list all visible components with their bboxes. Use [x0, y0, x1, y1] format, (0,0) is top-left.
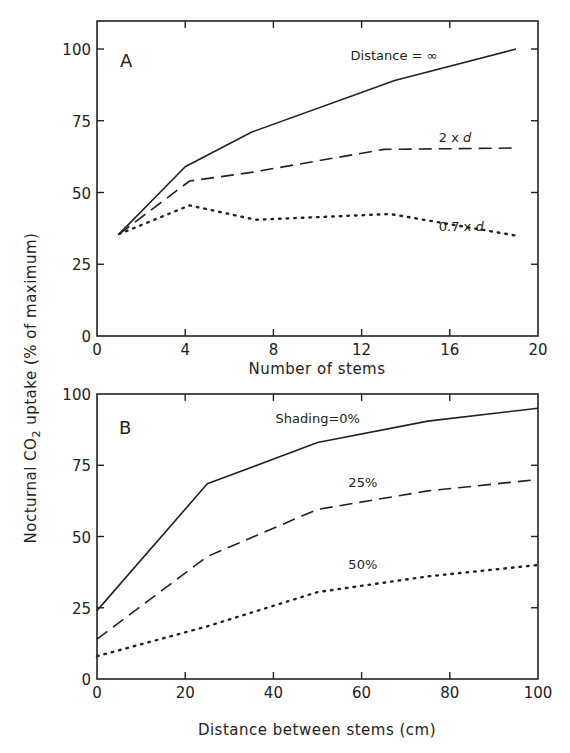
panel-a-frame	[97, 21, 538, 336]
panel-b: 0204060801000255075100 Shading=0%25%50% …	[62, 386, 552, 739]
y-tick-label: 25	[72, 600, 91, 618]
y-axis-title-post: uptake (% of maximum)	[22, 233, 40, 431]
panel-a-letter: A	[120, 50, 133, 71]
series-label: 2 x d	[439, 130, 472, 145]
series-line-solid	[97, 408, 538, 610]
series-label: 50%	[348, 557, 377, 572]
panel-b-frame	[97, 394, 538, 679]
x-tick-label: 12	[352, 341, 371, 359]
x-tick-label: 80	[440, 684, 459, 702]
x-tick-label: 0	[92, 684, 102, 702]
y-tick-label: 0	[81, 328, 91, 346]
y-tick-label: 25	[72, 256, 91, 274]
figure: Nocturnal CO2 uptake (% of maximum) 0481…	[0, 0, 570, 753]
panel-a: 0481216200255075100 Distance = ∞2 x d0.7…	[62, 21, 547, 378]
series-label: Shading=0%	[276, 411, 360, 426]
x-tick-label: 16	[440, 341, 459, 359]
panel-b-series-labels: Shading=0%25%50%	[276, 411, 378, 573]
panel-b-letter: B	[119, 417, 131, 438]
panel-b-ticks: 0204060801000255075100	[62, 386, 552, 702]
y-axis-title-sub: 2	[30, 430, 43, 438]
series-label: Distance = ∞	[351, 48, 438, 63]
y-tick-label: 100	[62, 41, 91, 59]
x-tick-label: 20	[176, 684, 195, 702]
y-tick-label: 75	[72, 457, 91, 475]
y-tick-label: 100	[62, 386, 91, 404]
series-line-dashed	[97, 480, 538, 640]
panel-a-series-labels: Distance = ∞2 x d0.7 x d	[351, 48, 485, 234]
y-axis-title: Nocturnal CO2 uptake (% of maximum)	[22, 233, 43, 544]
y-tick-label: 0	[81, 671, 91, 689]
y-tick-label: 75	[72, 113, 91, 131]
series-label: 25%	[348, 475, 377, 490]
panel-a-ticks: 0481216200255075100	[62, 21, 547, 359]
x-tick-label: 40	[264, 684, 283, 702]
panel-b-lines	[97, 408, 538, 656]
series-line-dotted	[97, 565, 538, 656]
y-axis-title-pre: Nocturnal CO	[22, 438, 40, 544]
series-label: 0.7 x d	[439, 219, 485, 234]
x-tick-label: 100	[524, 684, 553, 702]
panel-b-x-axis-title: Distance between stems (cm)	[198, 721, 436, 739]
y-tick-label: 50	[72, 185, 91, 203]
x-tick-label: 20	[528, 341, 547, 359]
x-tick-label: 8	[269, 341, 279, 359]
x-tick-label: 4	[180, 341, 190, 359]
x-tick-label: 0	[92, 341, 102, 359]
y-tick-label: 50	[72, 529, 91, 547]
x-tick-label: 60	[352, 684, 371, 702]
panel-a-x-axis-title: Number of stems	[248, 360, 385, 378]
